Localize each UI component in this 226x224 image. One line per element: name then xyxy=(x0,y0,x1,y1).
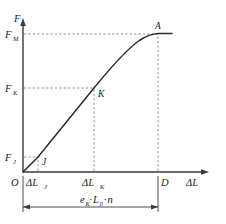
y-axis-arrowhead xyxy=(20,18,26,26)
diagram-canvas: F M F K F J F ΔL O ΔL J ΔL K D xyxy=(0,0,226,224)
x-tick-label-dlj-base: ΔL xyxy=(25,177,38,188)
point-label-a: A xyxy=(154,21,161,31)
x-tick-label-dlk-sub: K xyxy=(99,183,105,190)
dimension-arrowhead-left xyxy=(23,205,30,210)
dimension-arrowhead-right xyxy=(151,205,158,210)
point-label-k: K xyxy=(97,89,105,99)
curve-point-labels-group: J K A xyxy=(42,21,161,167)
y-tick-labels-group: F M F K F J xyxy=(4,29,19,165)
x-tick-label-dlk-base: ΔL xyxy=(81,177,94,188)
y-tick-label-fj-base: F xyxy=(4,152,12,163)
point-label-j: J xyxy=(42,157,47,167)
dimension-label-l-base: L xyxy=(92,194,99,205)
y-tick-label-fk-sub: K xyxy=(12,89,18,96)
x-axis-title: ΔL xyxy=(185,177,198,188)
x-tick-labels-group: ΔL J ΔL K D xyxy=(25,177,169,190)
axes-group xyxy=(20,18,209,175)
y-tick-label-fm-base: F xyxy=(4,29,12,40)
dimension-label-n-base: n xyxy=(108,194,113,205)
y-axis-title: F xyxy=(13,13,21,24)
y-tick-label-fj-sub: J xyxy=(13,158,17,165)
dimension-label-sep1: · xyxy=(89,194,93,205)
origin-label: O xyxy=(11,177,19,188)
dimension-label-sep2: · xyxy=(104,194,108,205)
curve-group xyxy=(23,34,172,172)
x-tick-label-d: D xyxy=(160,177,169,188)
axis-name-labels-group: F ΔL O xyxy=(11,13,198,188)
force-elongation-figure: F M F K F J F ΔL O ΔL J ΔL K D xyxy=(0,0,226,224)
y-tick-label-fm-sub: M xyxy=(12,35,19,42)
x-axis-arrowhead xyxy=(201,169,209,175)
force-elongation-curve xyxy=(23,34,172,172)
y-tick-label-fk-base: F xyxy=(4,83,12,94)
dimension-label-e-base: e xyxy=(80,194,85,205)
x-tick-label-dlj-sub: J xyxy=(44,183,48,190)
